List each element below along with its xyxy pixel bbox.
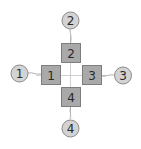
square-label-2: 2 [67,47,75,61]
circle-label-4: 4 [67,122,75,136]
circle-label-3: 3 [119,69,127,83]
circle-node-2[interactable]: 2 [62,12,79,29]
connector-1 [28,73,41,74]
circle-node-1[interactable]: 1 [11,65,28,82]
circle-node-4[interactable]: 4 [62,120,79,137]
square-node-3[interactable]: 3 [83,66,102,85]
square-node-4[interactable]: 4 [62,88,81,107]
circle-node-3[interactable]: 3 [115,67,132,84]
square-label-4: 4 [67,91,75,105]
cross-layout-diagram: 2 1 3 4 2 1 3 4 [0,0,141,149]
square-node-2[interactable]: 2 [62,44,81,63]
square-node-1[interactable]: 1 [42,66,61,85]
circle-label-2: 2 [67,14,75,28]
square-label-1: 1 [47,69,55,83]
circle-label-1: 1 [16,67,24,81]
square-label-3: 3 [88,69,96,83]
